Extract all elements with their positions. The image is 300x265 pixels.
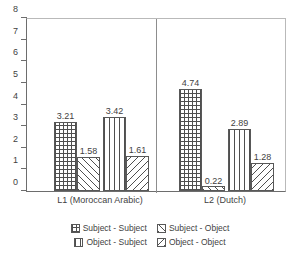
bar-value-label: 1.61 [129, 146, 147, 155]
legend-row-1: Subject - Subject Subject - Object [71, 224, 230, 233]
bar-l2-subject-subject: 4.74 [179, 89, 202, 192]
y-axis-label-3: 3 [13, 113, 18, 122]
bar-l2-object-subject: 2.89 [228, 129, 251, 192]
y-axis-label-4: 4 [13, 91, 18, 100]
y-axis-label-1: 1 [13, 156, 18, 165]
y-tick-8 [21, 17, 27, 18]
group-label-l1: L1 (Moroccan Arabic) [57, 196, 143, 205]
bar-l2-subject-object: 0.22 [202, 186, 225, 191]
bar-l1-subject-subject: 3.21 [54, 122, 77, 191]
y-axis-label-0: 0 [13, 178, 18, 187]
bar-value-label: 1.28 [254, 153, 272, 162]
legend-item-object-subject[interactable]: Object - Subject [74, 238, 146, 247]
bar-value-label: 2.89 [231, 119, 249, 128]
bar-l2-object-object: 1.28 [251, 163, 274, 191]
group-label-l2: L2 (Dutch) [204, 196, 246, 205]
bar-chart: 8 7 6 5 4 3 2 1 0 3.21 1.58 [0, 0, 300, 265]
bar-l1-subject-object: 1.58 [77, 157, 100, 191]
bar-l1-object-object: 1.61 [126, 156, 149, 191]
y-axis-label-2: 2 [13, 134, 18, 143]
bar-l1-object-subject: 3.42 [103, 117, 126, 191]
legend-swatch-diagonal-forward-icon [157, 224, 166, 233]
bars-layer: 3.21 1.58 3.42 1.61 4.74 0.22 2.89 1.28 [27, 19, 285, 191]
y-axis-label-7: 7 [13, 26, 18, 35]
legend-label: Subject - Subject [83, 224, 147, 233]
legend-item-object-object[interactable]: Object - Object [157, 238, 226, 247]
legend-item-subject-subject[interactable]: Subject - Subject [71, 224, 147, 233]
legend-swatch-diagonal-back-icon [157, 238, 166, 247]
legend-label: Object - Object [169, 238, 226, 247]
legend-row-2: Object - Subject Object - Object [74, 238, 225, 247]
legend-swatch-vertical-lines-icon [74, 238, 83, 247]
legend-item-subject-object[interactable]: Subject - Object [157, 224, 229, 233]
legend-label: Subject - Object [169, 224, 229, 233]
legend-swatch-crosshatch-icon [71, 224, 80, 233]
bar-value-label: 0.22 [205, 177, 223, 186]
legend: Subject - Subject Subject - Object Objec… [0, 224, 300, 247]
bar-value-label: 3.42 [106, 107, 124, 116]
y-axis-label-5: 5 [13, 69, 18, 78]
bar-value-label: 4.74 [182, 79, 200, 88]
bar-value-label: 3.21 [57, 112, 75, 121]
bar-value-label: 1.58 [80, 147, 98, 156]
plot-area: 8 7 6 5 4 3 2 1 0 3.21 1.58 [26, 18, 286, 192]
y-axis-label-8: 8 [13, 5, 18, 14]
legend-label: Object - Subject [86, 238, 146, 247]
y-axis-label-6: 6 [13, 48, 18, 57]
